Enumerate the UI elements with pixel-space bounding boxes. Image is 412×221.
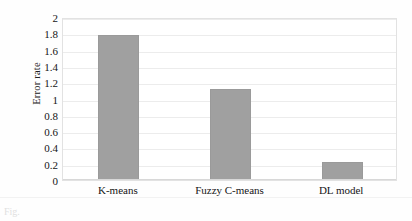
x-axis-tick-label: DL model [319, 184, 364, 197]
gridline [63, 19, 396, 20]
y-axis-tick-label: 0.2 [44, 159, 58, 170]
x-axis-baseline [63, 179, 396, 180]
bar [210, 89, 251, 180]
y-axis-tick-label: 0.6 [44, 127, 58, 138]
figure-caption: Fig. [4, 206, 154, 221]
y-axis-tick-label: 0 [53, 176, 59, 187]
y-axis-tick-label: 1.6 [44, 45, 58, 56]
bar [98, 35, 139, 180]
y-axis-tick-label: 1.8 [44, 29, 58, 40]
y-axis-tick-label: 1 [53, 94, 59, 105]
scan-edge-divider [0, 197, 412, 198]
y-axis-tick-label: 1.4 [44, 61, 58, 72]
y-axis-tick-labels: 21.81.61.41.210.80.60.40.20 [24, 18, 58, 181]
bar [322, 162, 363, 180]
figure-bar-chart: Error rate 21.81.61.41.210.80.60.40.20 K… [0, 0, 412, 221]
y-axis-tick-label: 2 [53, 13, 59, 24]
y-axis-tick-label: 0.4 [44, 143, 58, 154]
plot-area [62, 18, 397, 181]
x-axis-tick-label: K-means [98, 184, 138, 197]
x-axis-tick-labels: K-meansFuzzy C-meansDL model [62, 184, 397, 202]
y-axis-tick-label: 1.2 [44, 78, 58, 89]
y-axis-tick-label: 0.8 [44, 110, 58, 121]
x-axis-tick-label: Fuzzy C-means [195, 184, 264, 197]
